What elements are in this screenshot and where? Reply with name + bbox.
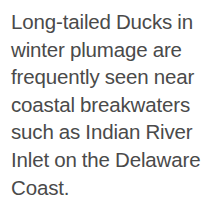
- caption-paragraph: Long-tailed Ducks in winter plumage are …: [11, 8, 208, 201]
- caption-panel: Long-tailed Ducks in winter plumage are …: [0, 0, 214, 219]
